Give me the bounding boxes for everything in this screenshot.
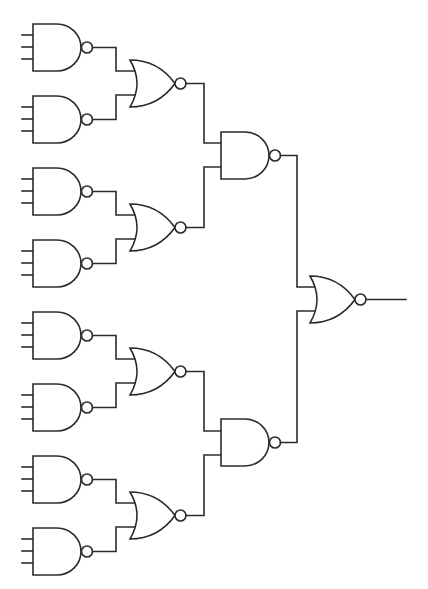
nand-gate-10	[221, 419, 281, 466]
nand-gate-4	[22, 240, 93, 287]
logic-circuit-diagram	[0, 0, 428, 589]
nand-gate-8	[22, 528, 93, 575]
nor-gate-1	[130, 60, 186, 107]
nand-gate-1	[22, 24, 93, 71]
nor-gate-2	[130, 204, 186, 251]
nor-gate-4	[130, 492, 186, 539]
nand-gate-3	[22, 168, 93, 215]
nor-gate-output	[310, 276, 366, 323]
nand-gate-5	[22, 312, 93, 359]
nand-gate-7	[22, 456, 93, 503]
nor-gate-3	[130, 348, 186, 395]
wires-level-3	[281, 156, 316, 443]
wires-level-2	[186, 84, 221, 516]
nand-gate-9	[221, 132, 281, 179]
wires-level-1	[93, 48, 137, 552]
nand-gate-6	[22, 384, 93, 431]
nand-gate-2	[22, 96, 93, 143]
